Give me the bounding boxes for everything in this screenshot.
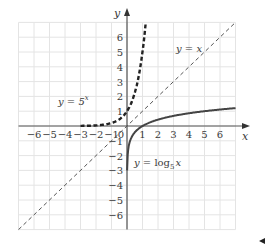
y-axis-arrow-icon: [124, 8, 130, 16]
y-tick-label: 6: [117, 32, 123, 43]
page-arrow-icon: [259, 238, 265, 244]
exp-label-power: x: [85, 94, 89, 102]
x-tick-label: 3: [170, 129, 176, 140]
x-tick-label: −6: [27, 129, 42, 140]
y-tick-label: −6: [108, 210, 123, 221]
x-tick-label: 1: [139, 129, 145, 140]
exp-curve: [81, 24, 146, 126]
x-axis-arrow-icon: [242, 123, 250, 129]
x-tick-label: −2: [89, 129, 104, 140]
x-tick-label: −5: [42, 129, 57, 140]
y-tick-label: −3: [108, 165, 123, 176]
exp-label-base: y = 5: [57, 96, 85, 107]
log-curve-label: y = log5x: [133, 157, 181, 171]
x-tick-label: 4: [186, 129, 192, 140]
x-tick-label: 5: [201, 129, 207, 140]
x-tick-label: 6: [217, 129, 223, 140]
exp-curve-label: y = 5x: [57, 94, 89, 107]
axes: [19, 8, 251, 230]
y-tick-label: −5: [108, 195, 123, 206]
y-axis-label: y: [113, 7, 121, 20]
x-tick-label: −4: [58, 129, 73, 140]
y-tick-label: 5: [117, 47, 123, 58]
y-tick-label: −4: [108, 180, 123, 191]
y-tick-label: 3: [117, 77, 123, 88]
y-tick-label: 4: [117, 62, 123, 73]
x-tick-label: 2: [155, 129, 161, 140]
y-tick-label: −2: [108, 151, 123, 162]
x-axis-label: x: [242, 130, 249, 143]
function-graph: −6−5−4−3−2−1123456−6−5−4−3−2−11234560 x …: [0, 0, 266, 247]
identity-line-label: y = x: [175, 43, 202, 54]
log-label-eq: = log: [140, 157, 171, 168]
y-tick-label: 1: [117, 106, 123, 117]
origin-label: 0: [118, 129, 124, 140]
x-tick-label: −3: [73, 129, 88, 140]
log-label-arg: x: [175, 157, 181, 168]
log-label-base: 5: [170, 163, 174, 171]
y-tick-label: 2: [117, 91, 123, 102]
